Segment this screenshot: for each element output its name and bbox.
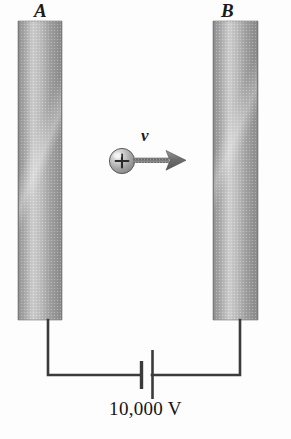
plate-a-label: A: [34, 1, 47, 20]
plate-b-label: B: [221, 1, 234, 20]
velocity-arrow-icon: [133, 151, 186, 171]
positive-point-charge: [109, 148, 134, 173]
physics-diagram: A B v 10,000 V: [0, 0, 291, 439]
velocity-label: v: [141, 127, 149, 144]
circuit-wiring: [48, 320, 240, 375]
voltage-label: 10,000 V: [0, 398, 291, 420]
plate-b: [213, 21, 258, 320]
diagram-canvas: [0, 0, 291, 439]
plate-a: [18, 21, 62, 320]
